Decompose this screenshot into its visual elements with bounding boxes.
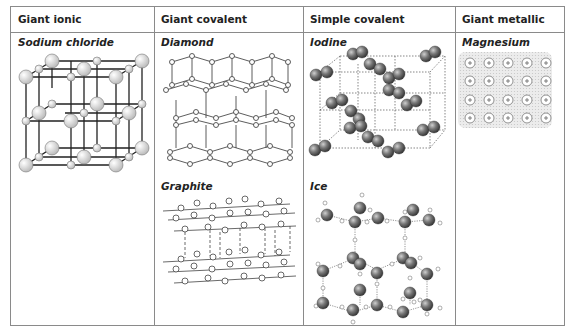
graphite-layers-icon: [163, 196, 296, 284]
sodium-chloride-ions: [19, 54, 149, 172]
diamond-lattice-icon: [164, 54, 295, 167]
magnesium-lattice-icon: [458, 52, 552, 128]
iodine-lattice-icon: [309, 46, 445, 158]
ice-lattice-icon: [314, 193, 442, 324]
structure-diagrams: [0, 0, 574, 334]
